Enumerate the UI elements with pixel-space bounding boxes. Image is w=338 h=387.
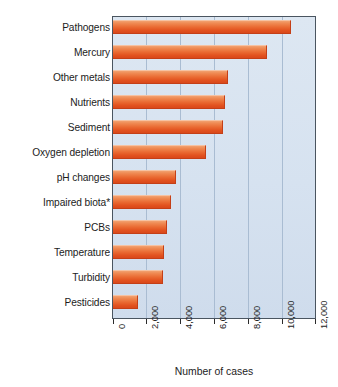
bar-oxygen-depletion xyxy=(113,145,206,159)
bar-impaired-biota xyxy=(113,195,171,209)
tick-mark-10000 xyxy=(282,319,283,324)
category-label-pcbs: PCBs xyxy=(0,222,110,234)
category-label-temperature: Temperature xyxy=(0,247,110,259)
category-label-ph-changes: pH changes xyxy=(0,172,110,184)
tick-label-6000: 6,000 xyxy=(218,306,228,329)
category-label-oxygen-depletion: Oxygen depletion xyxy=(0,147,110,159)
bar-mercury xyxy=(113,45,267,59)
tick-mark-4000 xyxy=(180,319,181,324)
category-label-mercury: Mercury xyxy=(0,47,110,59)
category-axis: Pathogens Mercury Other metals Nutrients… xyxy=(0,16,110,319)
category-label-sediment: Sediment xyxy=(0,122,110,134)
tick-label-0: 0 xyxy=(117,324,127,329)
category-label-pathogens: Pathogens xyxy=(0,22,110,34)
tick-label-12000: 12,000 xyxy=(319,301,329,329)
category-label-nutrients: Nutrients xyxy=(0,97,110,109)
bar-sediment xyxy=(113,120,223,134)
tick-mark-0 xyxy=(113,319,114,324)
bar-nutrients xyxy=(113,95,225,109)
plot-area xyxy=(112,16,316,319)
bar-pathogens xyxy=(113,20,291,34)
category-label-pesticides: Pesticides xyxy=(0,297,110,309)
bar-other-metals xyxy=(113,70,228,84)
tick-label-2000: 2,000 xyxy=(150,306,160,329)
bar-pesticides xyxy=(113,295,138,309)
tick-label-10000: 10,000 xyxy=(286,301,296,329)
tick-mark-12000 xyxy=(315,319,316,324)
bar-temperature xyxy=(113,245,164,259)
category-label-turbidity: Turbidity xyxy=(0,272,110,284)
bar-chart-figure: Pathogens Mercury Other metals Nutrients… xyxy=(0,0,338,387)
category-label-impaired-biota: Impaired biota* xyxy=(0,197,110,209)
category-label-other-metals: Other metals xyxy=(0,72,110,84)
tick-mark-8000 xyxy=(248,319,249,324)
bar-ph-changes xyxy=(113,170,176,184)
value-axis-title: Number of cases xyxy=(112,366,316,377)
tick-mark-6000 xyxy=(214,319,215,324)
tick-label-8000: 8,000 xyxy=(252,306,262,329)
bar-turbidity xyxy=(113,270,163,284)
tick-mark-2000 xyxy=(146,319,147,324)
tick-label-4000: 4,000 xyxy=(184,306,194,329)
bar-pcbs xyxy=(113,220,167,234)
bars-layer xyxy=(113,17,315,318)
value-axis: 0 2,000 4,000 6,000 8,000 10,000 12,000 xyxy=(112,319,316,329)
